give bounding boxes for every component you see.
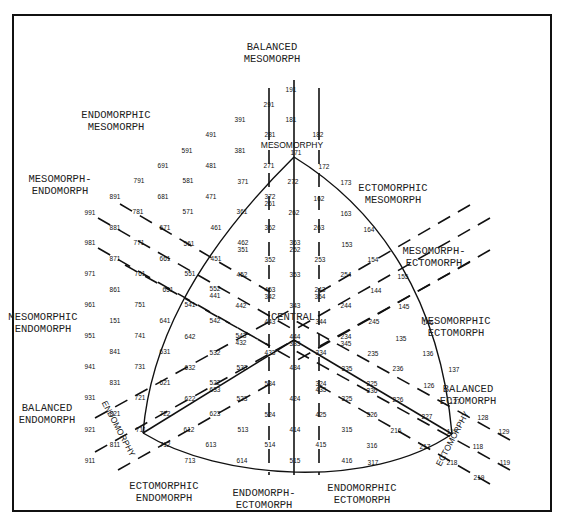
somatotype-code: 144 — [371, 287, 382, 294]
somatotype-code: 414 — [290, 426, 301, 433]
somatotype-code: 713 — [185, 457, 196, 464]
somatotype-code: 561 — [184, 240, 195, 247]
somatotype-code: 391 — [235, 116, 246, 123]
somatotype-code: 811 — [110, 441, 121, 448]
somatotype-code: 433 — [265, 349, 276, 356]
somatotype-code: 127 — [450, 398, 461, 405]
somatotype-code: 245 — [369, 318, 380, 325]
somatotype-code: 154 — [368, 256, 379, 263]
somatotype-code: 351 — [238, 246, 249, 253]
somatotype-code: 118 — [473, 443, 484, 450]
somatotype-code: 173 — [341, 179, 352, 186]
somatotype-code: 326 — [367, 411, 378, 418]
somatotype-code: 542 — [210, 317, 221, 324]
somatotype-code: 651 — [163, 286, 174, 293]
somatotype-code: 361 — [237, 208, 248, 215]
somatotype-code: 216 — [391, 427, 402, 434]
somatotype-code: 591 — [182, 147, 193, 154]
category-label-mesomorph-endomorph: MESOMORPH-ENDOMORPH — [28, 173, 91, 197]
somatotype-code: 761 — [135, 270, 146, 277]
somatotype-code: 621 — [160, 379, 171, 386]
somatotype-code: 162 — [314, 195, 325, 202]
somatotype-code: 334 — [316, 349, 327, 356]
category-label-balanced-endomorph: BALANCEDENDOMORPH — [19, 402, 76, 426]
bottom-boundary-curve — [143, 433, 452, 472]
somatotype-code: 911 — [85, 457, 96, 464]
somatotype-code: 671 — [160, 224, 171, 231]
somatotype-code: 235 — [368, 350, 379, 357]
somatotype-code: 416 — [342, 457, 353, 464]
somatotype-code: 631 — [160, 348, 171, 355]
somatotype-code: 514 — [265, 441, 276, 448]
somatotype-code: 432 — [236, 339, 247, 346]
somatotype-code: 771 — [134, 239, 145, 246]
somatotype-code: 146 — [423, 319, 434, 326]
somatotype-code: 581 — [183, 177, 194, 184]
somatotype-code: 354 — [315, 293, 326, 300]
somatotype-code: 821 — [110, 410, 121, 417]
somatotype-code: 523 — [237, 395, 248, 402]
somatotype-code: 243 — [315, 286, 326, 293]
somatotype-code: 661 — [160, 255, 171, 262]
somatotype-code: 271 — [264, 162, 275, 169]
somatotype-code: 881 — [110, 224, 121, 231]
somatotype-code: 452 — [237, 271, 248, 278]
somatotype-code: 623 — [210, 410, 221, 417]
somatotype-code: 362 — [265, 224, 276, 231]
somatotype-code: 352 — [265, 256, 276, 263]
central-axis-label: CENTRAL — [271, 311, 315, 323]
category-label-mesomorph-ectomorph: MESOMORPH-ECTOMORPH — [402, 245, 465, 269]
somatochart: BALANCEDMESOMORPHENDOMORPHICMESOMORPHMES… — [0, 0, 562, 523]
somatotype-code: 261 — [265, 200, 276, 207]
somatotype-code: 612 — [184, 426, 195, 433]
category-label-ectomorphic-endomorph: ECTOMORPHICENDOMORPH — [129, 480, 198, 504]
somatotype-code: 135 — [396, 335, 407, 342]
somatotype-code: 291 — [264, 101, 275, 108]
somatotype-code: 345 — [341, 340, 352, 347]
somatotype-code: 153 — [342, 241, 353, 248]
category-label-ectomorphic-mesomorph: ECTOMORPHICMESOMORPH — [358, 182, 427, 206]
somatotype-code: 891 — [110, 193, 121, 200]
somatotype-code: 681 — [158, 193, 169, 200]
category-label-balanced-ectomorph: BALANCEDECTOMORPH — [440, 383, 497, 407]
somatotype-code: 371 — [238, 178, 249, 185]
somatotype-code: 481 — [206, 162, 217, 169]
category-labels: BALANCEDMESOMORPHENDOMORPHICMESOMORPHMES… — [8, 41, 496, 511]
category-label-endomorphic-ectomorph: ENDOMORPHICECTOMORPH — [327, 482, 396, 506]
somatotype-code: 254 — [341, 271, 352, 278]
somatotype-code: 281 — [265, 131, 276, 138]
somatotype-code: 272 — [288, 178, 299, 185]
category-label-endomorph-ectomorph: ENDOMORPH-ECTOMORPH — [232, 487, 295, 511]
somatotype-code: 191 — [286, 86, 297, 93]
somatotype-code: 244 — [341, 302, 352, 309]
somatotype-code: 163 — [341, 210, 352, 217]
somatotype-code: 543 — [236, 332, 247, 339]
somatotype-code: 381 — [235, 147, 246, 154]
somatotype-code: 941 — [85, 363, 96, 370]
category-label-mesomorphic-endomorph: MESOMORPHICENDOMORPH — [8, 311, 77, 335]
somatotype-code: 444 — [290, 333, 301, 340]
somatotype-code: 633 — [210, 386, 221, 393]
somatotype-code: 344 — [316, 318, 327, 325]
somatotype-code: 164 — [364, 226, 375, 233]
somatotype-code: 336 — [367, 387, 378, 394]
somatotype-code: 151 — [110, 317, 121, 324]
somatotype-code: 453 — [265, 286, 276, 293]
somatotype-code: 551 — [185, 270, 196, 277]
somatotype-code: 181 — [286, 116, 297, 123]
somatotype-code: 172 — [319, 163, 330, 170]
somatotype-code: 532 — [210, 349, 221, 356]
somatotype-code: 462 — [238, 239, 249, 246]
somatotype-code: 691 — [158, 162, 169, 169]
somatotype-code: 443 — [265, 318, 276, 325]
somatotype-code: 333 — [290, 340, 301, 347]
somatotype-code: 343 — [290, 302, 301, 309]
somatotype-code: 491 — [206, 131, 217, 138]
somatotype-code: 217 — [420, 443, 431, 450]
somatotype-code: 841 — [110, 348, 121, 355]
somatotype-code: 614 — [237, 457, 248, 464]
somatotype-code: 991 — [85, 209, 96, 216]
somatotype-code: 451 — [211, 255, 222, 262]
somatotype-code: 252 — [290, 246, 301, 253]
somatotype-code: 534 — [265, 380, 276, 387]
